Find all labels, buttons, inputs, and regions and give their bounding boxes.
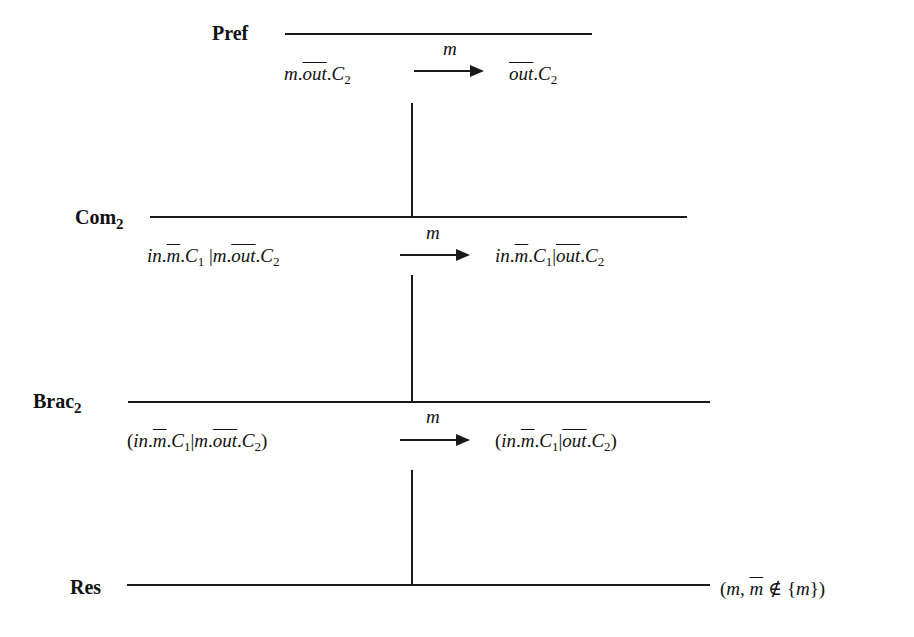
connector-brac2-res [411,470,413,585]
inference-line-pref [285,33,592,35]
com2-transition-arrow [400,254,468,256]
rule-name-brac2: Brac2 [33,390,82,417]
com2-rhs-term: in.m.C1|out.C2 [495,245,604,270]
res-side-condition: (m, m ∉ {m}) [720,577,825,600]
brac2-transition-label: m [426,406,440,428]
connector-pref-com [411,103,413,218]
pref-transition-label: m [443,38,457,60]
rule-name-com2: Com2 [75,206,124,233]
rule-name-res: Res [70,576,101,599]
pref-transition-arrow [414,70,482,72]
pref-rhs-term: out.C2 [509,63,557,88]
brac2-rhs-term: (in.m.C1|out.C2) [495,430,617,455]
inference-line-brac2 [128,401,710,403]
brac2-lhs-term: (in.m.C1|m.out.C2) [127,430,267,455]
pref-lhs-term: m.out.C2 [284,63,351,88]
rule-name-pref: Pref [212,22,248,45]
inference-line-res [127,584,710,586]
inference-line-com2 [150,216,687,218]
com2-lhs-term: in.m.C1 |m.out.C2 [147,245,279,270]
com2-transition-label: m [426,222,440,244]
brac2-transition-arrow [400,439,468,441]
connector-com2-brac2 [411,275,413,402]
